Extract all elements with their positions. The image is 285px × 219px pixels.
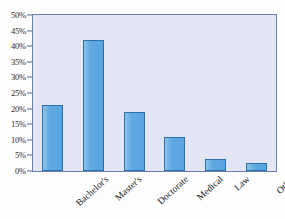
y-axis: 0%5%10%15%20%25%30%35%40%45%50% [0, 14, 32, 172]
bar [246, 163, 267, 171]
bar [42, 105, 63, 171]
y-axis-tick-label: 25% [11, 88, 26, 98]
bar [124, 112, 145, 171]
x-axis-tick-label: Law [232, 174, 251, 193]
bars-layer [32, 14, 277, 172]
y-axis-tick-label: 0% [15, 166, 26, 176]
y-axis-tick-label: 15% [11, 119, 26, 129]
x-axis-tick-label: Master's [113, 174, 143, 203]
x-axis: Bachelor'sMaster'sDoctorateMedicalLawOth… [32, 174, 277, 219]
y-axis-tick-label: 50% [11, 10, 26, 20]
x-axis-tick-label: Other [274, 174, 285, 196]
y-axis-tick-label: 5% [15, 150, 26, 160]
y-axis-tick-label: 40% [11, 41, 26, 51]
y-axis-tick-label: 35% [11, 57, 26, 67]
x-axis-tick-label: Medical [195, 174, 225, 202]
bar-chart-figure: 0%5%10%15%20%25%30%35%40%45%50% Bachelor… [0, 0, 285, 219]
bar [83, 40, 104, 171]
y-axis-tick-label: 20% [11, 104, 26, 114]
x-axis-tick-label: Bachelor's [75, 174, 111, 208]
y-axis-tick-label: 45% [11, 26, 26, 36]
bar [164, 137, 185, 171]
y-axis-tick-label: 30% [11, 72, 26, 82]
x-axis-tick-label: Doctorate [156, 174, 191, 206]
bar [205, 159, 226, 171]
y-axis-tick-label: 10% [11, 135, 26, 145]
